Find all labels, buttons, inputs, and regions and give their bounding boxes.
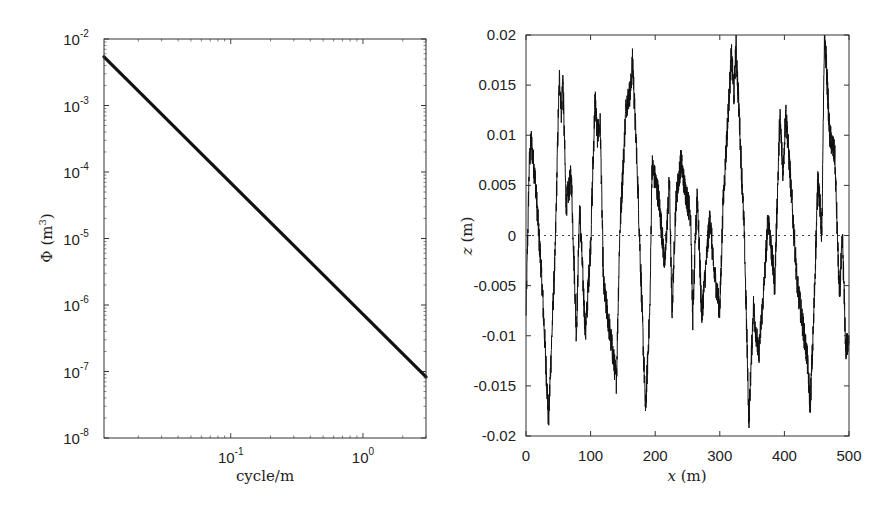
- profile-x-axis-label: x (m): [667, 467, 706, 485]
- y-tick-label: 0.02: [487, 26, 516, 43]
- psd-axes-frame: [104, 39, 426, 438]
- y-tick-label: 10-7: [63, 361, 89, 381]
- y-tick-label: -0.01: [482, 327, 516, 344]
- y-tick-label: 0.015: [478, 76, 516, 93]
- y-tick-label: 10-2: [63, 28, 89, 48]
- y-tick-label: 0.005: [478, 176, 516, 193]
- psd-x-ticks: 10-1100: [138, 39, 426, 466]
- psd-y-axis-label: Φ (m3): [37, 213, 56, 262]
- psd-plot: 10-210-310-410-510-610-710-8 10-1100 cyc…: [37, 28, 426, 485]
- y-tick-label: 10-8: [63, 427, 89, 447]
- y-tick-label: -0.015: [473, 377, 516, 394]
- y-tick-label: 10-6: [63, 294, 89, 314]
- y-tick-label: -0.02: [482, 427, 516, 444]
- y-tick-label: 0: [508, 227, 516, 244]
- psd-line: [104, 57, 426, 377]
- x-tick-label: 200: [643, 447, 668, 464]
- psd-x-axis-label: cycle/m: [236, 467, 294, 485]
- y-tick-label: 0.01: [487, 126, 516, 143]
- psd-y-ticks: 10-210-310-410-510-610-710-8: [63, 28, 426, 447]
- x-tick-label: 500: [836, 447, 861, 464]
- y-tick-label: 10-5: [63, 228, 89, 248]
- y-tick-label: -0.005: [473, 277, 516, 294]
- x-tick-label: 100: [352, 446, 375, 466]
- x-tick-label: 400: [772, 447, 797, 464]
- figure: 10-210-310-410-510-610-710-8 10-1100 cyc…: [0, 0, 894, 514]
- x-tick-label: 300: [707, 447, 732, 464]
- y-tick-label: 10-3: [63, 95, 89, 115]
- x-tick-label: 100: [578, 447, 603, 464]
- profile-y-axis-label: z (m): [458, 217, 476, 257]
- profile-line: [526, 35, 849, 428]
- x-tick-label: 10-1: [218, 446, 244, 466]
- x-tick-label: 0: [522, 447, 530, 464]
- profile-plot: 0.020.0150.010.0050-0.005-0.01-0.015-0.0…: [458, 26, 862, 485]
- y-tick-label: 10-4: [63, 161, 89, 181]
